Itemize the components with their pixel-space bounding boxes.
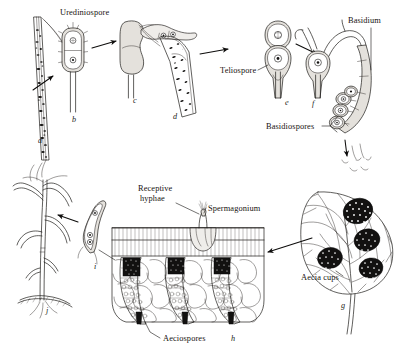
stage-j-wheat-plant[interactable] <box>12 172 78 322</box>
label-receptive-hyphae-line1: Receptive <box>138 184 173 193</box>
stage-g-barberry-leaf-with-aecia[interactable] <box>298 186 398 336</box>
stage-f-teliospore-germinating-basidium[interactable] <box>294 18 380 166</box>
stage-d-infected-stem-telia[interactable] <box>156 26 200 120</box>
arrow-b-to-c <box>92 41 116 48</box>
stage-h-barberry-leaf-section[interactable] <box>110 200 266 326</box>
panel-letter-h: h <box>231 334 235 343</box>
stage-e-two-celled-teliospore[interactable] <box>262 18 294 108</box>
stage-i-germinating-aeciospore[interactable] <box>76 198 108 258</box>
arrow-d-to-e <box>200 49 228 54</box>
rust-life-cycle-figure: Urediniospore Teliospore Basidium Basidi… <box>0 0 400 356</box>
panel-letter-i: i <box>94 262 97 271</box>
label-urediniospore: Urediniospore <box>60 8 109 17</box>
stage-b-urediniospore-two-celled[interactable] <box>56 20 94 125</box>
label-teliospore: Teliospore <box>220 66 256 75</box>
label-aeciospores: Aeciospores <box>163 334 206 343</box>
stage-a-infected-wheat-stem-uredinia[interactable] <box>28 14 54 164</box>
